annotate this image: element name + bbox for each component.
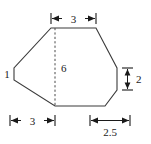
right-side-label: 2: [136, 73, 142, 85]
top-dimension-arrow-left: [52, 16, 59, 22]
left-dimension-group: 1: [4, 68, 10, 80]
bottom-left-width-label: 3: [30, 115, 36, 127]
bottom-right-width-label: 2.5: [103, 126, 117, 138]
bottom-right-dimension-group: 2.5: [90, 115, 130, 138]
top-width-label: 3: [71, 13, 77, 25]
bottom-left-dimension-arrow-right: [47, 118, 54, 124]
bottom-left-dimension-group: 3: [10, 115, 55, 127]
top-dimension-group: 3: [51, 13, 96, 25]
geometry-figure: 3 1 6 2 3: [0, 0, 151, 144]
figure-canvas: 3 1 6 2 3: [0, 0, 151, 144]
bottom-left-dimension-arrow-left: [11, 118, 18, 124]
right-dimension-arrow-bottom: [125, 83, 131, 90]
bottom-right-dimension-arrow-right: [122, 118, 129, 124]
center-height-label: 6: [61, 62, 67, 74]
right-dimension-group: 2: [122, 68, 142, 90]
top-dimension-arrow-right: [88, 16, 95, 22]
center-height-group: 6: [61, 62, 67, 74]
bottom-right-dimension-arrow-left: [91, 118, 98, 124]
right-dimension-arrow-top: [125, 69, 131, 76]
left-side-label: 1: [4, 68, 10, 80]
